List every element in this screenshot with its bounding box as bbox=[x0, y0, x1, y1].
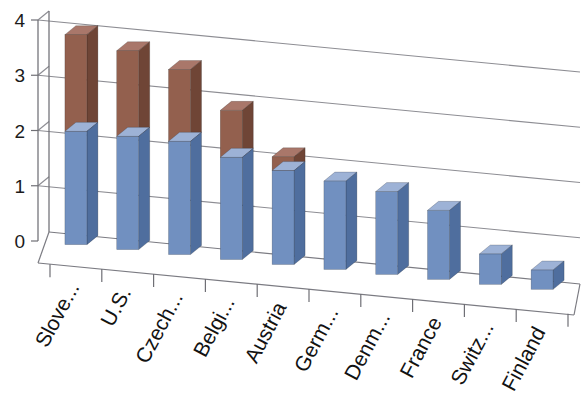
bar-9-segment-series-1 bbox=[479, 245, 512, 284]
chart-container: 01234 Slove...U.S.Czech...Belgi...Austri… bbox=[0, 0, 588, 417]
bar-9 bbox=[479, 245, 512, 284]
bar-8-segment-series-1-side-face bbox=[450, 201, 461, 279]
bar-3-segment-series-1-side-face bbox=[191, 132, 202, 254]
bar-3 bbox=[169, 60, 202, 254]
bar-1-segment-series-2-front-face bbox=[65, 35, 87, 132]
bar-6-segment-series-1-front-face bbox=[324, 181, 346, 269]
bar-3-segment-series-1-front-face bbox=[169, 141, 191, 254]
bar-8-segment-series-1-front-face bbox=[428, 210, 450, 279]
bar-4-segment-series-1-side-face bbox=[242, 148, 253, 259]
bar-2-segment-series-1-front-face bbox=[117, 136, 139, 249]
bar-2-segment-series-1 bbox=[117, 127, 150, 249]
bar-7-segment-series-1-side-face bbox=[398, 183, 409, 275]
bar-6 bbox=[324, 172, 357, 269]
bar-3-segment-series-2-front-face bbox=[169, 69, 191, 141]
bar-1-segment-series-1-side-face bbox=[87, 122, 98, 244]
bar-5-segment-series-1-front-face bbox=[272, 171, 294, 265]
bar-6-segment-series-1-side-face bbox=[346, 172, 357, 269]
bar-5 bbox=[272, 148, 305, 265]
bar-7 bbox=[376, 183, 409, 275]
bar-9-segment-series-1-front-face bbox=[479, 254, 501, 284]
y-tick-label-0: 0 bbox=[14, 231, 25, 252]
bar-2-segment-series-2 bbox=[117, 42, 150, 137]
bar-10-segment-series-1-front-face bbox=[531, 270, 553, 289]
bar-1-segment-series-2 bbox=[65, 26, 98, 132]
y-tick-label-3: 3 bbox=[14, 65, 25, 86]
bar-1-segment-series-2-side-face bbox=[87, 26, 98, 132]
bar-4 bbox=[220, 101, 253, 259]
bar-3-segment-series-1 bbox=[169, 132, 202, 254]
bar-1-segment-series-1-front-face bbox=[65, 131, 87, 244]
bar-2-segment-series-2-front-face bbox=[117, 51, 139, 137]
bar-5-segment-series-1-side-face bbox=[294, 162, 305, 265]
bar-1 bbox=[65, 26, 98, 245]
bar-1-segment-series-1 bbox=[65, 122, 98, 244]
bar-4-segment-series-1-front-face bbox=[220, 157, 242, 259]
bar-3-segment-series-2 bbox=[169, 60, 202, 141]
bar-8-segment-series-1 bbox=[428, 201, 461, 279]
bar-6-segment-series-1 bbox=[324, 172, 357, 269]
bar-5-segment-series-1 bbox=[272, 162, 305, 265]
bar-4-segment-series-1 bbox=[220, 148, 253, 259]
bar-7-segment-series-1-front-face bbox=[376, 192, 398, 275]
y-tick-label-4: 4 bbox=[14, 10, 25, 31]
y-tick-label-1: 1 bbox=[14, 176, 25, 197]
bar-2-segment-series-1-side-face bbox=[139, 127, 150, 249]
column-chart-3d: 01234 Slove...U.S.Czech...Belgi...Austri… bbox=[0, 0, 588, 417]
bar-2-segment-series-2-side-face bbox=[139, 42, 150, 137]
bar-3-segment-series-2-side-face bbox=[191, 60, 202, 141]
bar-8 bbox=[428, 201, 461, 279]
bar-2 bbox=[117, 42, 150, 250]
bar-7-segment-series-1 bbox=[376, 183, 409, 275]
y-tick-label-2: 2 bbox=[14, 121, 25, 142]
